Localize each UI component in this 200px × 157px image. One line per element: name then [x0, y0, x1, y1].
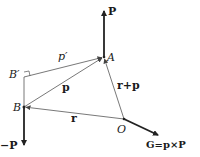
label-p: p: [62, 82, 70, 93]
label-B: B: [13, 102, 21, 113]
diagram-lines: [0, 0, 200, 157]
right-angle-marker: [24, 71, 30, 76]
label-A: A: [107, 52, 115, 63]
label-neg-P: −P: [0, 140, 18, 151]
label-P: P: [108, 6, 116, 17]
vector-G: [124, 119, 158, 135]
label-G: G=p×P: [146, 140, 186, 150]
vector-diagram: P A p′ B′ p r+p B r O −P G=p×P: [0, 0, 200, 157]
point-A: [103, 56, 106, 59]
label-O: O: [117, 124, 126, 135]
label-p-prime: p′: [58, 51, 68, 62]
point-B: [23, 106, 26, 109]
point-O: [123, 118, 126, 121]
label-r: r: [71, 113, 77, 124]
label-r-plus-p: r+p: [117, 80, 140, 91]
label-B-prime: B′: [9, 69, 20, 80]
